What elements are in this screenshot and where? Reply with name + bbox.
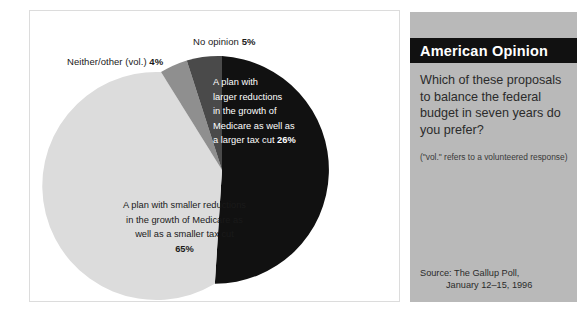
pie-label-larger-line-3: in the growth of bbox=[213, 106, 277, 116]
pie-label-neither-other: Neither/other (vol.) 4% bbox=[67, 56, 163, 69]
pie-label-larger-line-1: A plan with bbox=[213, 77, 258, 87]
pie-label-smaller-line-2: in the growth of Medicare as bbox=[126, 215, 243, 225]
pie-label-smaller-line-3: well as a smaller tax cut bbox=[135, 229, 234, 239]
pie-label-no-opinion-value: 5% bbox=[242, 36, 256, 47]
pie-label-larger-line-4: Medicare as well as bbox=[213, 121, 295, 131]
poll-question: Which of these proposals to balance the … bbox=[420, 72, 570, 138]
pie-label-larger-line-2: larger reductions bbox=[213, 92, 282, 102]
pie-label-smaller-line-1: A plan with smaller reductions bbox=[123, 200, 246, 210]
pie-label-smaller-value: 65% bbox=[82, 242, 287, 257]
pie-label-neither-other-text: Neither/other (vol.) bbox=[67, 56, 149, 67]
source-label: Source: The Gallup Poll, bbox=[420, 268, 519, 278]
pie-label-larger-value: 26% bbox=[277, 135, 296, 145]
pie-label-no-opinion-text: No opinion bbox=[193, 36, 242, 47]
side-panel-header: American Opinion bbox=[410, 38, 577, 63]
pie-label-smaller-reductions: A plan with smaller reductions in the gr… bbox=[82, 198, 287, 256]
source-credit: Source: The Gallup Poll, January 12–15, … bbox=[420, 268, 572, 291]
pie-label-neither-other-value: 4% bbox=[149, 56, 163, 67]
pie-label-larger-line-5: a larger tax cut bbox=[213, 135, 277, 145]
pie-label-no-opinion: No opinion 5% bbox=[193, 36, 255, 49]
pie-chart: No opinion 5% Neither/other (vol.) 4% A … bbox=[30, 11, 399, 301]
side-panel: American Opinion Which of these proposal… bbox=[410, 12, 577, 302]
pie-chart-svg bbox=[30, 11, 399, 301]
poll-note: ("vol." refers to a volunteered response… bbox=[420, 152, 572, 163]
poll-graphic: No opinion 5% Neither/other (vol.) 4% A … bbox=[0, 0, 577, 315]
source-date: January 12–15, 1996 bbox=[420, 280, 572, 292]
side-panel-title: American Opinion bbox=[410, 43, 548, 59]
chart-panel: No opinion 5% Neither/other (vol.) 4% A … bbox=[29, 10, 400, 302]
pie-label-larger-reductions: A plan with larger reductions in the gro… bbox=[213, 75, 345, 148]
